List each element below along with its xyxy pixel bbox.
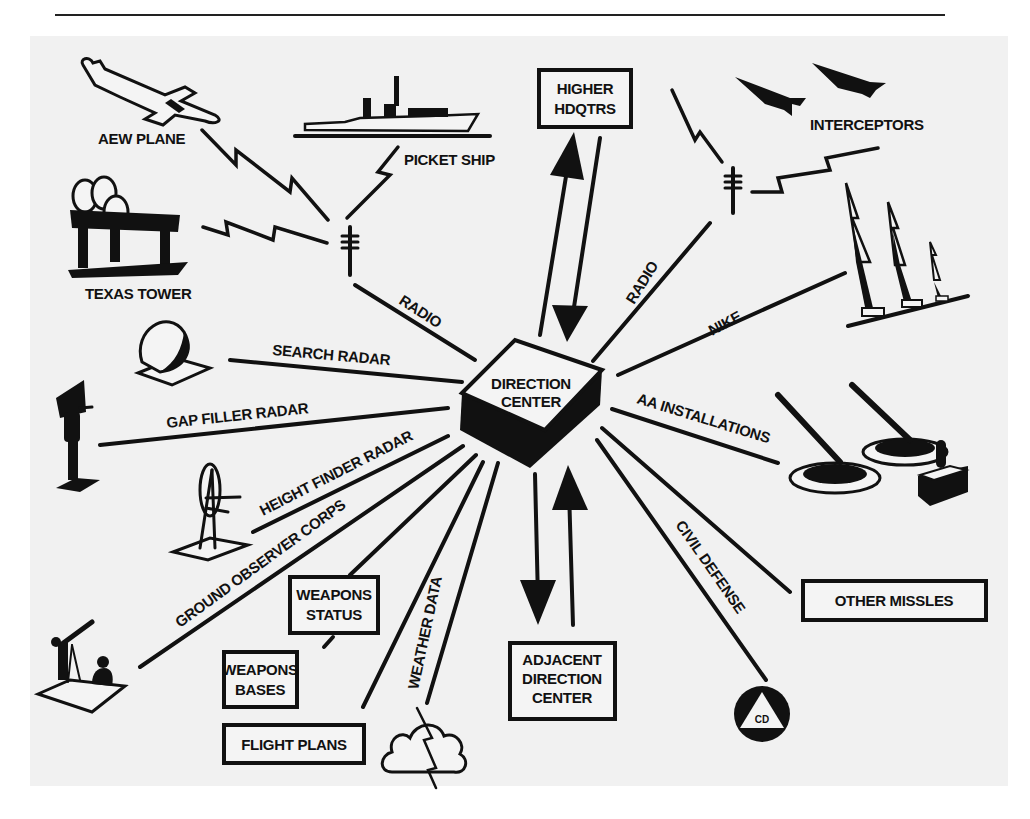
interceptor-jet-icon [735, 63, 886, 116]
line-other-missiles [602, 428, 790, 592]
arrow-up-from-adjacent [569, 490, 573, 625]
bolt-texas-tower [203, 222, 327, 243]
weapons-bases-label-2: BASES [235, 681, 285, 698]
higher-hq-label-1: HIGHER [557, 80, 614, 97]
picket-ship-icon [295, 76, 490, 136]
arrowhead-up-icon [552, 465, 588, 510]
weapons-status-label-1: WEAPONS [296, 586, 372, 603]
other-missiles-label: OTHER MISSLES [835, 592, 954, 609]
search-radar-icon [138, 322, 210, 385]
bolt-interceptors-2 [752, 148, 878, 192]
texas-tower-icon [68, 177, 188, 278]
line-civil-defense [597, 440, 766, 680]
aew-plane-icon [82, 59, 219, 125]
line-height-finder [253, 436, 448, 532]
texas-tower-label: TEXAS TOWER [85, 285, 192, 302]
storm-cloud-icon [382, 708, 465, 788]
bolt-picket-ship [347, 147, 398, 218]
weapons-bases-box[interactable]: WEAPONS BASES [222, 652, 298, 707]
nike-label: NIKE [705, 307, 744, 338]
ground-observer-icon [38, 622, 125, 712]
radio-antenna-icon [342, 227, 358, 275]
direction-center[interactable]: DIRECTION CENTER [460, 340, 602, 468]
arrowhead-down-icon [520, 580, 556, 625]
higher-hq-arrows [540, 132, 600, 342]
bolt-aew [202, 130, 328, 220]
weapons-status-box[interactable]: WEAPONS STATUS [290, 577, 378, 633]
direction-center-label-2: CENTER [501, 393, 561, 410]
weapons-status-label-2: STATUS [306, 606, 362, 623]
arrowhead-up-icon [550, 132, 584, 180]
radio-links-left [202, 130, 398, 243]
higher-hq-label-2: HDQTRS [554, 100, 616, 117]
flight-plans-label: FLIGHT PLANS [241, 736, 347, 753]
line-weapons-bases-link [324, 637, 333, 647]
bolt-interceptors-1 [672, 90, 722, 162]
interceptors-label: INTERCEPTORS [810, 116, 924, 133]
adjacent-dc-label-1: ADJACENT [522, 651, 601, 668]
arrowhead-down-icon [552, 305, 588, 342]
height-finder-radar-icon [173, 464, 248, 560]
sage-air-defense-diagram: DIRECTION CENTER HIGHER HDQTRS ADJACENT … [0, 0, 1030, 819]
picket-ship-label: PICKET SHIP [404, 151, 495, 168]
adjacent-dc-box[interactable]: ADJACENT DIRECTION CENTER [510, 643, 615, 719]
flight-plans-box[interactable]: FLIGHT PLANS [224, 725, 364, 763]
direction-center-label-1: DIRECTION [491, 375, 571, 392]
radio-right-label: RADIO [622, 257, 662, 306]
aew-plane-label: AEW PLANE [98, 130, 186, 147]
cd-badge-label: CD [755, 714, 769, 725]
weapons-bases-label-1: WEAPONS [222, 661, 298, 678]
gap-filler-radar-icon [56, 380, 100, 492]
nike-missile-icon [846, 183, 968, 326]
weather-data-label: WEATHER DATA [404, 574, 445, 690]
aa-gun-icon [778, 385, 968, 506]
other-missiles-box[interactable]: OTHER MISSLES [803, 581, 986, 620]
civil-defense-icon: CD [734, 686, 790, 742]
adjacent-dc-label-2: DIRECTION [522, 670, 602, 687]
adjacent-dc-label-3: CENTER [532, 689, 592, 706]
radio-antenna-icon [725, 168, 741, 213]
adjacent-dc-arrows [520, 465, 588, 625]
higher-hq-box[interactable]: HIGHER HDQTRS [539, 70, 631, 127]
